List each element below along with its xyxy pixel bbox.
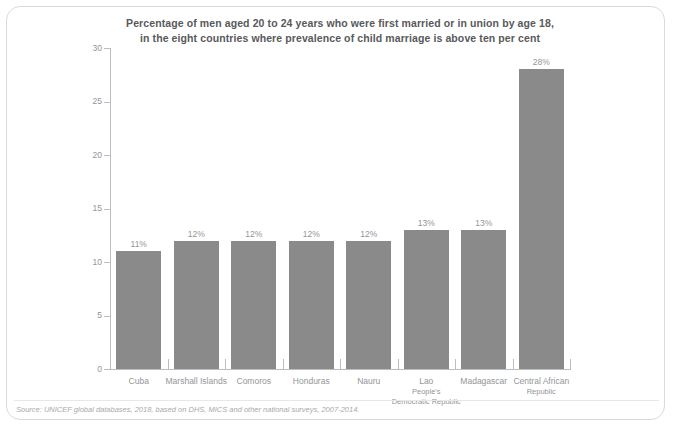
x-axis-tick [513, 359, 514, 370]
bar-value-label: 11% [109, 239, 169, 249]
y-axis-tick-label: 0 [74, 365, 102, 374]
chart-page: Percentage of men aged 20 to 24 years wh… [0, 0, 673, 429]
y-axis-tick [104, 316, 111, 317]
chart-frame [6, 6, 665, 420]
bar [346, 241, 391, 369]
y-axis-tick-label: 25 [74, 97, 102, 106]
y-axis-tick-label: 20 [74, 151, 102, 160]
bar-value-label: 13% [396, 218, 456, 228]
y-axis-tick-label: 5 [74, 311, 102, 320]
bar-value-label: 13% [454, 218, 514, 228]
y-axis-tick-label: 30 [74, 44, 102, 53]
y-axis-tick-label: 10 [74, 258, 102, 267]
bar [461, 230, 506, 369]
y-axis-tick [104, 369, 111, 370]
x-axis-category-label: Central AfricanRepublic [496, 376, 586, 397]
y-axis-tick [104, 155, 111, 156]
y-axis-labels: 051015202530 [68, 0, 102, 429]
category-label-line: Republic [496, 387, 586, 397]
x-axis-tick [283, 359, 284, 370]
source-note: Source: UNICEF global databases, 2018, b… [16, 404, 359, 415]
chart-title-line-2: in the eight countries where prevalence … [60, 31, 620, 46]
bar-value-label: 12% [339, 229, 399, 239]
x-axis-tick [398, 359, 399, 370]
bar [289, 241, 334, 369]
bar [404, 230, 449, 369]
x-axis-tick [455, 359, 456, 370]
category-label-line: Central African [496, 376, 586, 387]
bar-value-label: 28% [511, 57, 571, 67]
bar [519, 69, 564, 369]
bar [231, 241, 276, 369]
source-divider [14, 400, 659, 401]
bar-value-label: 12% [224, 229, 284, 239]
bar [174, 241, 219, 369]
bar-value-label: 12% [166, 229, 226, 239]
x-axis-tick [340, 359, 341, 370]
y-axis-tick [104, 209, 111, 210]
category-label-line: Democratic Republic [381, 397, 471, 407]
bar-value-label: 12% [281, 229, 341, 239]
chart-title: Percentage of men aged 20 to 24 years wh… [60, 16, 620, 46]
x-axis-tick [168, 359, 169, 370]
y-axis-tick-label: 15 [74, 204, 102, 213]
y-axis-tick [104, 102, 111, 103]
chart-title-line-1: Percentage of men aged 20 to 24 years wh… [60, 16, 620, 31]
category-label-line: People's [381, 387, 471, 397]
y-axis-tick [104, 48, 111, 49]
x-axis-tick [570, 359, 571, 370]
y-axis-tick [104, 262, 111, 263]
bar [116, 251, 161, 369]
x-axis-tick [225, 359, 226, 370]
